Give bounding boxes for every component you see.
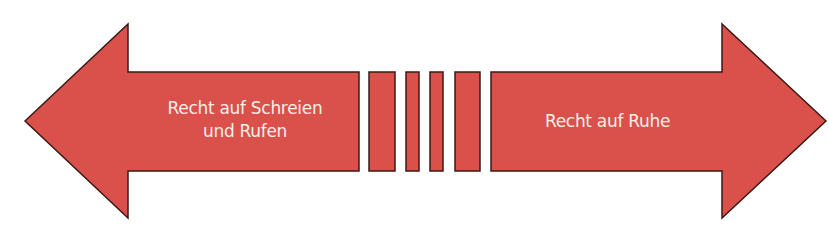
left-arrow-label: Recht auf Schreien und Rufen xyxy=(130,97,360,143)
diagram-canvas: Recht auf Schreien und Rufen Recht auf R… xyxy=(0,0,829,229)
right-arrow-label: Recht auf Ruhe xyxy=(510,110,705,133)
right-arrow-label-text: Recht auf Ruhe xyxy=(510,110,705,133)
separator-bar-2 xyxy=(406,72,419,171)
separator-bar-4 xyxy=(455,72,480,171)
left-arrow-label-line2: und Rufen xyxy=(130,120,360,143)
separator-bar-3 xyxy=(430,72,443,171)
separator-bar-1 xyxy=(369,72,395,171)
left-arrow-label-line1: Recht auf Schreien xyxy=(130,97,360,120)
